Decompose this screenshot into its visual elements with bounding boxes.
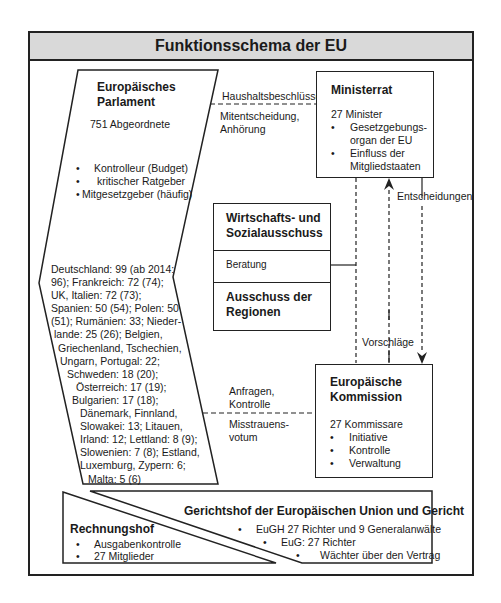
- label-entscheidungen: Entscheidungen: [397, 190, 472, 203]
- rechnungshof-role-2: •27 Mitglieder: [76, 550, 154, 563]
- rechnungshof-title: Rechnungshof: [70, 522, 154, 537]
- gerichtshof-role-2: •EuG: 27 Richter: [263, 536, 356, 549]
- parlament-seats: Deutschland: 99 (ab 2014: 96); Frankreic…: [51, 263, 200, 486]
- label-beratung: Beratung: [226, 258, 267, 271]
- parlament-roles: Kontrolleur (Budget) kritischer Ratgeber…: [73, 162, 192, 201]
- label-mitentscheidung: Mitentscheidung, Anhörung: [220, 110, 299, 136]
- adr-title: Ausschuss der Regionen: [226, 290, 312, 320]
- label-haushaltsbeschluesse: Haushaltsbeschlüsse,: [222, 90, 324, 103]
- ministerrat-title: Ministerrat: [331, 83, 392, 98]
- kommission-title: Europäische Kommission: [330, 375, 402, 405]
- kommission-members: 27 Kommissare: [330, 418, 403, 431]
- label-anfragen: Anfragen, Kontrolle: [229, 385, 275, 411]
- kommission-roles: •Initiative •Kontrolle •Verwaltung: [330, 431, 401, 470]
- ministerrat-members: 27 Minister: [331, 108, 382, 121]
- wsa-title: Wirtschafts- und Sozialausschuss: [226, 211, 323, 241]
- parlament-title: Europäisches Parlament: [97, 80, 176, 110]
- ministerrat-roles: •Gesetzgebungs- organ der EU •Einfluss d…: [331, 121, 427, 173]
- gerichtshof-role-1: •EuGH 27 Richter und 9 Generalanwälte: [238, 523, 441, 536]
- parlament-members: 751 Abgeordnete: [90, 118, 170, 131]
- gerichtshof-role-3: •Wächter über den Vertrag: [296, 549, 440, 562]
- label-misstrauensvotum: Misstrauens- votum: [229, 418, 289, 444]
- role-item: kritischer Ratgeber: [73, 175, 192, 188]
- ministerrat-box: Ministerrat 27 Minister •Gesetzgebungs- …: [316, 71, 434, 178]
- label-vorschlaege: Vorschläge: [362, 336, 414, 349]
- gerichtshof-title: Gerichtshof der Europäischen Union und G…: [184, 504, 464, 519]
- ausschuesse-box: Wirtschafts- und Sozialausschuss Beratun…: [213, 203, 331, 331]
- role-item: Kontrolleur (Budget): [73, 162, 192, 175]
- role-item: Mitgesetzgeber (häufig): [73, 188, 192, 201]
- kommission-box: Europäische Kommission 27 Kommissare •In…: [315, 364, 433, 478]
